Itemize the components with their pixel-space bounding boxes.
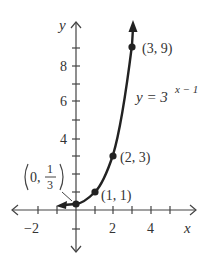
y-tick-label: 8 (60, 59, 67, 74)
svg-text:0,: 0, (30, 170, 41, 185)
svg-text:3: 3 (47, 178, 53, 192)
x-axis (12, 205, 196, 215)
point-2-3 (109, 152, 116, 159)
exponential-curve (64, 28, 133, 205)
point-0-third (72, 200, 79, 207)
y-axis-label: y (57, 17, 66, 33)
function-label-exponent: x − 1 (174, 83, 198, 95)
y-axis (71, 22, 81, 252)
point-label-0-third: 0, 1 3 (25, 162, 72, 201)
y-tick-label: 6 (60, 94, 67, 109)
function-label: y = 3 x − 1 (134, 83, 198, 105)
point-label-1-1: (1, 1) (101, 188, 132, 204)
point-1-1 (91, 188, 98, 195)
x-tick-label: −2 (24, 221, 39, 236)
x-tick-label: 4 (147, 221, 154, 236)
curve-top-arrow-icon (129, 20, 138, 32)
exponential-graph: y x −2 2 4 8 6 4 (3, 9) (2, 3) (1, 1) 0,… (0, 0, 212, 265)
point-label-3-9: (3, 9) (142, 41, 173, 57)
curve-left-arrow-icon (56, 201, 67, 209)
svg-text:y = 3: y = 3 (134, 89, 168, 105)
point-3-9 (128, 43, 135, 50)
x-tick-label: 2 (109, 221, 116, 236)
function-label-base: y = 3 (134, 89, 168, 105)
y-tick-label: 4 (60, 132, 67, 147)
point-label-2-3: (2, 3) (120, 150, 151, 166)
svg-text:1: 1 (47, 162, 53, 176)
x-axis-label: x (183, 220, 191, 236)
